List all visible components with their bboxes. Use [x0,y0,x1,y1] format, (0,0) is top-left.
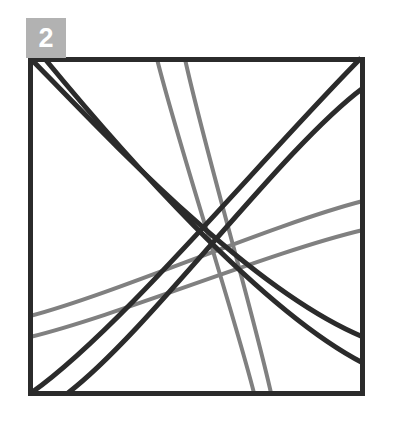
figure-root: 2 [0,0,396,421]
figure-number-label: 2 [38,25,53,52]
line-figure-svg [0,0,396,421]
figure-number-badge: 2 [26,18,66,58]
